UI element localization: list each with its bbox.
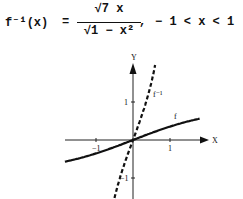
function-graph: Y X −1 1 1 −1 f⁻¹ f [0, 0, 243, 199]
f-inverse-label: f⁻¹ [153, 90, 163, 99]
y-tick-label-neg1: −1 [120, 174, 129, 183]
x-axis-arrow-icon [200, 137, 209, 144]
x-tick-label-neg1: −1 [92, 144, 101, 153]
y-axis-label: Y [131, 53, 137, 62]
y-axis-arrow-icon [130, 63, 137, 74]
y-tick-label-pos1: 1 [124, 98, 128, 107]
x-tick-label-pos1: 1 [168, 144, 172, 153]
x-axis-label: X [212, 136, 218, 145]
f-label: f [174, 112, 177, 121]
